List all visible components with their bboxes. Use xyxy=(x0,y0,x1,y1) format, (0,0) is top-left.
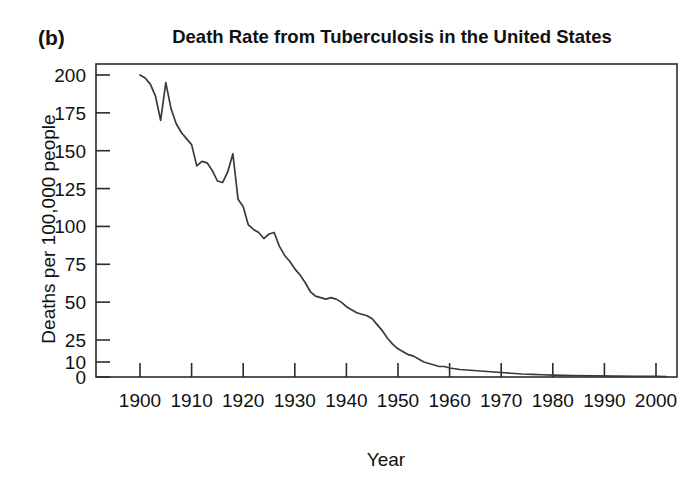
y-tick-label: 10 xyxy=(65,352,86,373)
x-tick-label: 2000 xyxy=(635,390,677,411)
y-tick-label: 75 xyxy=(65,254,86,275)
plot-frame xyxy=(96,64,677,377)
x-tick-label: 1920 xyxy=(222,390,264,411)
y-tick-label: 175 xyxy=(54,103,86,124)
x-tick-label: 1960 xyxy=(428,390,470,411)
y-tick-label: 100 xyxy=(54,216,86,237)
x-axis-tick-group: 1900191019201930194019501960197019801990… xyxy=(119,363,677,411)
x-tick-label: 1940 xyxy=(325,390,367,411)
x-tick-label: 1910 xyxy=(170,390,212,411)
figure-container: (b) Death Rate from Tuberculosis in the … xyxy=(0,0,700,483)
x-tick-label: 1900 xyxy=(119,390,161,411)
series-line-death-rate xyxy=(140,75,666,377)
y-tick-label: 200 xyxy=(54,65,86,86)
data-series-group xyxy=(140,75,666,377)
y-tick-label: 25 xyxy=(65,330,86,351)
y-tick-label: 50 xyxy=(65,292,86,313)
line-chart-plot: 010255075100125150175200 190019101920193… xyxy=(0,0,700,483)
x-tick-label: 1930 xyxy=(274,390,316,411)
x-tick-label: 1970 xyxy=(480,390,522,411)
y-axis-tick-group: 010255075100125150175200 xyxy=(54,65,110,388)
x-tick-label: 1990 xyxy=(583,390,625,411)
y-tick-label: 125 xyxy=(54,179,86,200)
x-tick-label: 1980 xyxy=(532,390,574,411)
x-tick-label: 1950 xyxy=(377,390,419,411)
y-tick-label: 150 xyxy=(54,141,86,162)
